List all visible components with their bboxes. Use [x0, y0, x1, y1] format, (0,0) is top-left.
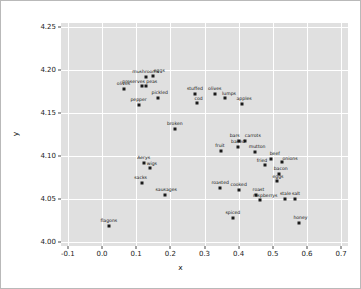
x-tick-mark — [341, 246, 342, 249]
y-tick-label: 4.20 — [40, 66, 56, 74]
y-tick-label: 4.25 — [40, 23, 56, 31]
gridline-vertical — [102, 23, 103, 246]
data-point — [284, 197, 287, 200]
data-point — [144, 85, 147, 88]
scatter-plot-figure: mushroomseggspreservespeasolivespepperpi… — [0, 0, 361, 289]
x-tick-label: 0.7 — [336, 250, 347, 258]
data-point-label: apples — [237, 97, 252, 102]
y-tick-label: 4.00 — [40, 238, 56, 246]
x-tick-mark — [170, 246, 171, 249]
gridline-vertical — [273, 23, 274, 246]
x-tick-mark — [67, 246, 68, 249]
y-tick-mark — [58, 113, 61, 114]
x-tick-label: 0.6 — [301, 250, 312, 258]
data-point-label: raspberrys — [253, 194, 278, 199]
data-point-label: fried — [257, 159, 268, 164]
data-point-label: sausages — [155, 188, 176, 193]
data-point — [137, 104, 140, 107]
data-point-label: cod — [195, 97, 203, 102]
y-tick-mark — [58, 27, 61, 28]
x-tick-label: -0.1 — [61, 250, 75, 258]
gridline-vertical — [307, 23, 308, 246]
y-axis-label: y — [11, 132, 20, 136]
data-point — [219, 186, 222, 189]
data-point-label: eggs — [272, 175, 283, 180]
data-point — [294, 197, 297, 200]
x-axis-label: x — [1, 263, 360, 272]
x-tick-mark — [136, 246, 137, 249]
data-point — [236, 146, 239, 149]
data-point-label: broken — [167, 122, 183, 127]
y-axis-ticks: 4.004.054.104.154.204.25 — [1, 1, 56, 289]
data-point-label: bacon — [274, 167, 288, 172]
y-tick-mark — [58, 198, 61, 199]
data-point — [231, 216, 234, 219]
x-tick-label: 0.4 — [233, 250, 244, 258]
data-point-label: cooked — [230, 183, 246, 188]
gridline-vertical — [68, 23, 69, 246]
x-tick-mark — [204, 246, 205, 249]
x-tick-label: 0.0 — [96, 250, 107, 258]
data-point-label: stuffed — [187, 87, 203, 92]
data-point — [213, 93, 216, 96]
y-tick-label: 4.10 — [40, 152, 56, 160]
x-tick-label: 0.3 — [199, 250, 210, 258]
x-tick-label: 0.5 — [267, 250, 278, 258]
data-point — [254, 150, 257, 153]
gridline-horizontal — [61, 242, 348, 243]
data-point-label: Aerys — [137, 156, 150, 161]
y-tick-label: 4.15 — [40, 109, 56, 117]
data-point-label: spiced — [225, 211, 240, 216]
gridline-horizontal — [61, 70, 348, 71]
data-point-label: fruit — [215, 144, 225, 149]
y-tick-mark — [58, 241, 61, 242]
data-point-label: peas — [146, 80, 157, 85]
data-point — [241, 103, 244, 106]
gridline-vertical — [341, 23, 342, 246]
data-point — [122, 88, 125, 91]
gridline-vertical — [205, 23, 206, 246]
data-point-label: flagons — [100, 219, 117, 224]
x-tick-mark — [238, 246, 239, 249]
gridline-horizontal — [61, 27, 348, 28]
plot-area: mushroomseggspreservespeasolivespepperpi… — [61, 23, 348, 246]
data-point — [107, 225, 110, 228]
gridline-vertical — [136, 23, 137, 246]
data-point — [140, 182, 143, 185]
y-tick-mark — [58, 70, 61, 71]
data-point — [140, 84, 143, 87]
gridline-vertical — [170, 23, 171, 246]
data-point — [195, 101, 198, 104]
y-tick-label: 4.05 — [40, 195, 56, 203]
data-point-label: olives — [117, 82, 130, 87]
data-point-label: lumps — [222, 92, 236, 97]
data-point — [275, 179, 278, 182]
x-tick-label: 0.1 — [131, 250, 142, 258]
data-point — [164, 193, 167, 196]
data-point — [156, 96, 159, 99]
data-point-label: wigs — [147, 162, 157, 167]
data-point-label: pepper — [130, 98, 146, 103]
data-point — [259, 198, 262, 201]
data-point — [263, 163, 266, 166]
data-point-label: roast — [253, 188, 265, 193]
x-tick-mark — [307, 246, 308, 249]
x-tick-mark — [272, 246, 273, 249]
data-point-label: carrots — [245, 134, 261, 139]
data-point — [148, 166, 151, 169]
data-point — [142, 161, 145, 164]
gridline-horizontal — [61, 113, 348, 114]
data-point-label: bars — [230, 134, 240, 139]
data-point-label: onions — [282, 157, 297, 162]
data-point-label: mutton — [249, 145, 266, 150]
data-point — [173, 128, 176, 131]
data-point-label: honey — [293, 216, 307, 221]
data-point-label: baked — [231, 140, 245, 145]
data-point-label: eggs — [154, 69, 165, 74]
y-tick-mark — [58, 155, 61, 156]
data-point — [298, 221, 301, 224]
gridline-horizontal — [61, 199, 348, 200]
x-tick-mark — [102, 246, 103, 249]
data-point — [224, 96, 227, 99]
data-point-label: salt — [292, 192, 300, 197]
